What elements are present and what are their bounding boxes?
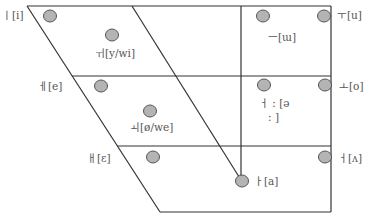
- vowel-point-o: [319, 79, 332, 91]
- vowel-point-i: [44, 10, 57, 22]
- vowel-point-e: [95, 80, 108, 92]
- vowel-point-a: [236, 175, 249, 187]
- vowel-label-ae: ㅐ[ɛ]: [87, 152, 111, 164]
- vowel-label-o: ㅗ[o]: [339, 80, 364, 92]
- left-edge: [27, 6, 160, 212]
- vowel-label-eo-cont: : ]: [268, 111, 279, 123]
- vowel-point-eu: [257, 10, 270, 22]
- vowel-label-e: ㅔ[e]: [38, 80, 62, 92]
- vowel-label-eo-open: ㅓ[ʌ]: [338, 152, 362, 164]
- vowel-label-eu: ㅡ[ɯ]: [268, 31, 296, 43]
- vowel-label-u: ㅜ[u]: [337, 9, 362, 21]
- vowel-label-eo: ㅓ : [ə: [259, 97, 290, 109]
- vowel-point-y-wi: [106, 29, 119, 41]
- vowel-point-eo: [258, 79, 271, 91]
- vowel-label-i: ㅣ[i]: [2, 9, 24, 21]
- vowel-chart: [0, 0, 365, 213]
- vowel-label-oe-we: ㅚ[ø/we]: [130, 121, 173, 133]
- vowel-point-u: [318, 10, 331, 22]
- vowel-point-eo-open: [319, 151, 332, 163]
- vowel-label-a: ㅏ[a]: [254, 175, 278, 187]
- vowel-label-y-wi: ㅟ[y/wi]: [95, 47, 135, 59]
- vowel-point-ae: [147, 151, 160, 163]
- vowel-point-oe-we: [144, 105, 157, 117]
